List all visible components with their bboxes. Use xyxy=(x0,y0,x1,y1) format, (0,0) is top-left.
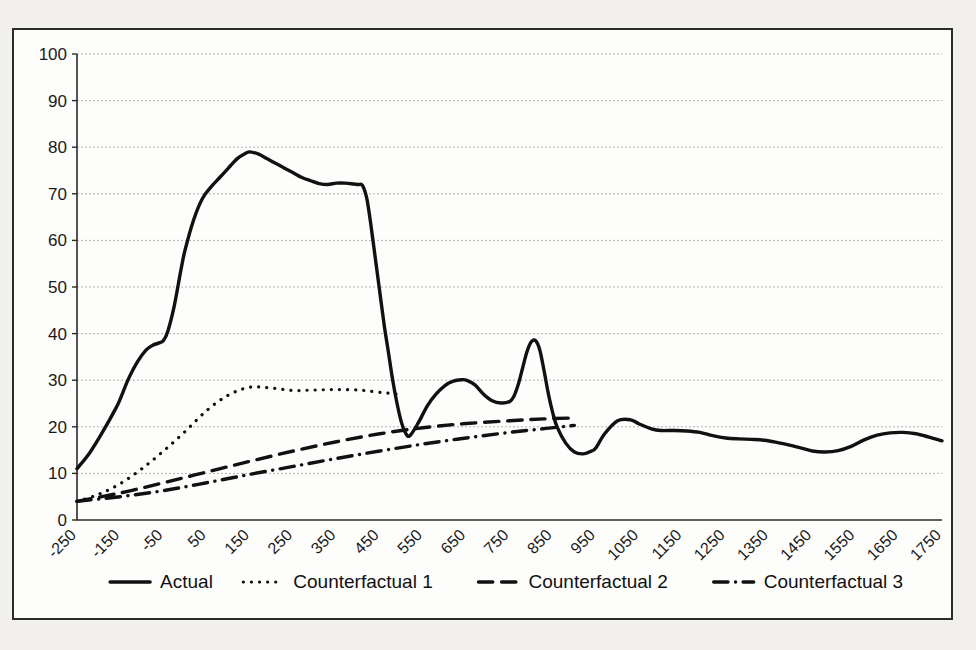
chart-legend: ActualCounterfactual 1Counterfactual 2Co… xyxy=(110,571,903,592)
gridlines-group xyxy=(77,54,942,473)
x-axis-tick-labels: -250-150-5050150250350450550650750850950… xyxy=(44,526,944,563)
y-tick-label: 40 xyxy=(48,325,67,344)
x-tick-label: 1550 xyxy=(820,526,857,563)
x-tick-label: 750 xyxy=(481,526,512,557)
x-tick-label: 250 xyxy=(264,526,295,557)
chart-frame: 0102030405060708090100 -250-150-50501502… xyxy=(12,28,953,620)
x-tick-label: 1750 xyxy=(907,526,944,563)
y-tick-label: 80 xyxy=(48,138,67,157)
series-line-counterfactual-3 xyxy=(77,425,574,501)
legend-label-counterfactual-3: Counterfactual 3 xyxy=(764,571,903,592)
legend-label-counterfactual-1: Counterfactual 1 xyxy=(293,571,432,592)
chart-page: 0102030405060708090100 -250-150-50501502… xyxy=(0,0,976,650)
x-tick-label: 850 xyxy=(524,526,555,557)
x-tick-label: -50 xyxy=(137,526,165,554)
x-tick-label: -250 xyxy=(44,526,79,561)
line-chart: 0102030405060708090100 -250-150-50501502… xyxy=(14,30,951,618)
y-tick-label: 70 xyxy=(48,185,67,204)
y-tick-label: 10 xyxy=(48,464,67,483)
y-tick-label: 20 xyxy=(48,418,67,437)
x-tick-label: 650 xyxy=(437,526,468,557)
series-line-counterfactual-2 xyxy=(77,418,574,501)
x-tick-label: 1150 xyxy=(648,526,684,562)
y-tick-label: 100 xyxy=(39,45,67,64)
y-tick-label: 90 xyxy=(48,92,67,111)
y-tick-label: 50 xyxy=(48,278,67,297)
x-tick-label: 550 xyxy=(394,526,425,557)
legend-label-counterfactual-2: Counterfactual 2 xyxy=(529,571,668,592)
x-tick-label: 1050 xyxy=(604,526,641,563)
y-tick-label: 30 xyxy=(48,371,67,390)
y-tick-label: 60 xyxy=(48,231,67,250)
x-tick-label: 450 xyxy=(351,526,382,557)
x-tick-label: 50 xyxy=(184,526,209,551)
x-tick-label: 950 xyxy=(567,526,598,557)
x-tick-label: 350 xyxy=(308,526,339,557)
x-tick-label: 1350 xyxy=(734,526,771,563)
x-tick-label: 1250 xyxy=(691,526,728,563)
x-tick-label: 1650 xyxy=(864,526,901,563)
x-tick-label: 150 xyxy=(221,526,252,557)
y-axis-tick-labels: 0102030405060708090100 xyxy=(39,45,77,530)
x-tick-label: 1450 xyxy=(777,526,814,563)
x-tick-label: -150 xyxy=(88,526,123,561)
series-line-counterfactual-1 xyxy=(77,387,401,502)
series-group xyxy=(77,152,942,502)
legend-label-actual: Actual xyxy=(160,571,213,592)
